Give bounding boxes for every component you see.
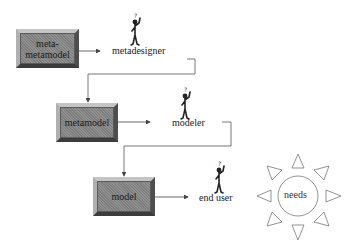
metametamodel-label: meta- metamodel <box>25 38 69 60</box>
metadesigner-label: metadesigner <box>112 45 165 56</box>
metametamodel-box: meta- metamodel <box>16 29 79 68</box>
needs-label: needs <box>284 189 307 200</box>
metametamodel-box-inner: meta- metamodel <box>20 33 75 64</box>
svg-text:?: ? <box>134 12 137 19</box>
metametamodel-label-line-1: meta- <box>36 38 59 49</box>
end-user-label: end user <box>199 192 233 203</box>
model-box: model <box>93 177 155 216</box>
metamodel-box-inner: metamodel <box>60 107 114 138</box>
svg-text:?: ? <box>184 86 187 93</box>
person-thinking-icon: ? <box>212 160 228 196</box>
metametamodel-label-line-2: metamodel <box>25 49 69 60</box>
model-box-inner: model <box>97 181 151 212</box>
modeler-label: modeler <box>172 117 205 128</box>
svg-text:?: ? <box>218 160 221 167</box>
metamodel-box: metamodel <box>56 103 118 142</box>
metamodel-label: metamodel <box>65 117 109 128</box>
meta-modeling-diagram: meta- metamodel metamodel model ? metade… <box>0 0 360 247</box>
person-thinking-icon: ? <box>128 12 144 48</box>
model-label: model <box>112 191 137 202</box>
